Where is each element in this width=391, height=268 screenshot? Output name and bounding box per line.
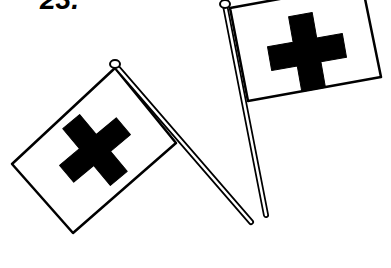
left-flag [12, 60, 251, 233]
illustration-canvas: 23. [0, 0, 391, 268]
right-flag [220, 0, 381, 215]
crossed-flags-illustration [0, 0, 391, 268]
